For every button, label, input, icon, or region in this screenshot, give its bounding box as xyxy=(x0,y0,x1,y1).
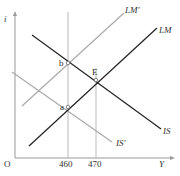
point-e-label: E xyxy=(92,67,98,77)
islm-diagram: i O Y 460 470 LM' LM IS IS' b E a xyxy=(0,0,180,176)
point-a-marker xyxy=(66,105,70,109)
y-axis-label: i xyxy=(4,14,7,24)
x-axis-arrow-icon xyxy=(170,156,175,160)
x-tick-470: 470 xyxy=(88,159,102,169)
x-axis-label: Y xyxy=(159,159,165,169)
point-b-label: b xyxy=(59,58,64,68)
lm-shifted-label: LM' xyxy=(124,5,141,15)
y-axis-arrow-icon xyxy=(13,11,17,16)
point-a-label: a xyxy=(60,102,64,112)
point-e-marker xyxy=(94,78,98,82)
x-tick-460: 460 xyxy=(59,159,73,169)
is-label: IS xyxy=(162,126,171,136)
is-shifted-label: IS' xyxy=(115,138,126,148)
origin-label: O xyxy=(4,159,11,169)
point-b-marker xyxy=(66,61,70,65)
lm-label: LM xyxy=(158,25,172,35)
lm-shifted-curve xyxy=(22,13,124,106)
